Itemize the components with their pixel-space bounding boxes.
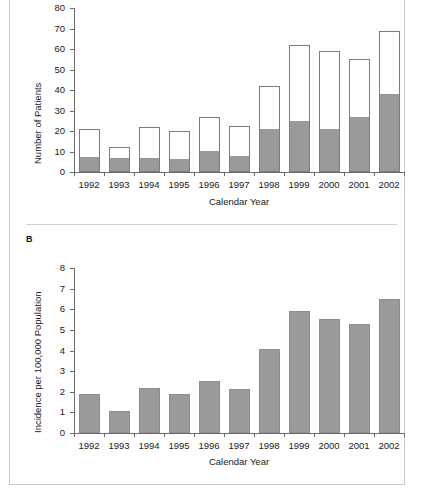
y-tick-label: 4	[41, 346, 65, 356]
y-tick	[70, 392, 74, 393]
y-tick-label: 2	[41, 387, 65, 397]
x-tick	[194, 172, 195, 176]
y-tick	[70, 330, 74, 331]
bar	[319, 319, 340, 433]
bar	[79, 394, 100, 433]
bar	[199, 381, 220, 433]
panel-a-y-axis	[74, 8, 75, 173]
bar	[259, 349, 280, 433]
x-tick	[74, 172, 75, 176]
bar	[229, 389, 250, 433]
y-tick	[70, 289, 74, 290]
bar-lower-segment	[380, 94, 399, 171]
x-tick	[134, 433, 135, 437]
y-tick-label: 1	[41, 407, 65, 417]
y-tick-label: 70	[41, 24, 65, 34]
bar-lower-segment	[140, 158, 159, 171]
x-tick-label: 1997	[224, 180, 254, 190]
x-tick	[74, 433, 75, 437]
x-tick	[194, 433, 195, 437]
x-tick-label: 1999	[284, 441, 314, 451]
bar-stacked	[319, 51, 340, 172]
bar	[139, 388, 160, 433]
x-tick	[224, 433, 225, 437]
panel-a: Number of Patients 010203040506070801992…	[0, 0, 431, 224]
x-tick	[284, 172, 285, 176]
y-tick	[70, 111, 74, 112]
panel-b-letter: B	[26, 234, 33, 244]
y-tick-label: 7	[41, 284, 65, 294]
y-tick-label: 20	[41, 126, 65, 136]
panel-a-plot-area: 0102030405060708019921993199419951996199…	[74, 8, 404, 172]
y-tick	[70, 309, 74, 310]
y-tick	[70, 90, 74, 91]
y-tick-label: 80	[41, 3, 65, 13]
bar-stacked	[259, 86, 280, 172]
bar-lower-segment	[350, 117, 369, 171]
y-tick	[70, 8, 74, 9]
bar-stacked	[139, 127, 160, 172]
y-tick	[70, 351, 74, 352]
x-tick	[104, 172, 105, 176]
panel-b-y-axis	[74, 268, 75, 434]
x-tick	[284, 433, 285, 437]
x-tick	[344, 172, 345, 176]
bar	[289, 311, 310, 433]
x-tick-label: 2001	[344, 441, 374, 451]
bar-stacked	[109, 147, 130, 172]
bar	[349, 324, 370, 433]
y-tick-label: 0	[41, 428, 65, 438]
panel-b-plot-area: 0123456781992199319941995199619971998199…	[74, 268, 404, 433]
x-tick-label: 1995	[164, 441, 194, 451]
x-tick	[404, 172, 405, 176]
bar-stacked	[379, 31, 400, 172]
y-tick-label: 40	[41, 85, 65, 95]
bar-stacked	[199, 117, 220, 172]
y-tick	[70, 412, 74, 413]
x-tick-label: 1998	[254, 441, 284, 451]
x-tick-label: 2002	[374, 441, 404, 451]
bar	[109, 411, 130, 433]
bar	[169, 394, 190, 433]
x-tick-label: 1992	[74, 441, 104, 451]
y-tick-label: 60	[41, 44, 65, 54]
x-tick	[314, 433, 315, 437]
bar-lower-segment	[230, 156, 249, 171]
panel-a-x-axis	[74, 172, 405, 173]
y-tick	[70, 371, 74, 372]
panel-b: B Incidence per 100,000 Population 01234…	[0, 224, 431, 497]
x-tick	[254, 433, 255, 437]
y-tick	[70, 49, 74, 50]
y-tick	[70, 268, 74, 269]
x-tick-label: 1996	[194, 180, 224, 190]
x-tick-label: 1996	[194, 441, 224, 451]
x-tick-label: 1993	[104, 180, 134, 190]
bar-lower-segment	[290, 121, 309, 171]
y-tick	[70, 152, 74, 153]
y-tick-label: 10	[41, 147, 65, 157]
x-tick-label: 1994	[134, 441, 164, 451]
y-tick-label: 5	[41, 325, 65, 335]
panel-a-x-axis-label: Calendar Year	[74, 196, 404, 207]
panel-b-x-axis	[74, 433, 405, 434]
x-tick	[104, 433, 105, 437]
x-tick	[134, 172, 135, 176]
bar-stacked	[79, 129, 100, 172]
bar-lower-segment	[200, 151, 219, 171]
bar	[379, 299, 400, 433]
x-tick-label: 2000	[314, 441, 344, 451]
bar-stacked	[229, 126, 250, 172]
x-tick-label: 1994	[134, 180, 164, 190]
x-tick-label: 2001	[344, 180, 374, 190]
y-tick-label: 8	[41, 263, 65, 273]
bar-lower-segment	[170, 159, 189, 171]
bar-stacked	[289, 45, 310, 172]
y-tick-label: 3	[41, 366, 65, 376]
x-tick-label: 1992	[74, 180, 104, 190]
x-tick-label: 2000	[314, 180, 344, 190]
figure-container: Number of Patients 010203040506070801992…	[0, 0, 431, 497]
x-tick	[224, 172, 225, 176]
y-tick-label: 6	[41, 304, 65, 314]
bar-stacked	[169, 131, 190, 172]
bar-lower-segment	[110, 158, 129, 171]
